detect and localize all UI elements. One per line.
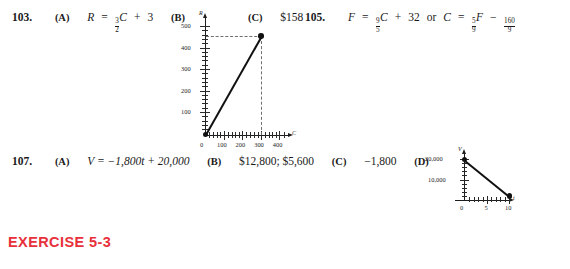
y-tick-label-400: 400 [181,44,191,51]
x-tick-major [242,131,243,140]
x-tick-minor [469,197,470,202]
numerator: 160 [504,18,515,25]
x-tick-minor [474,197,475,202]
x-tick-label-400: 400 [273,141,283,148]
lhs: R [87,11,94,23]
fraction-nine-fifths: 95 [376,18,380,34]
x-tick-minor [483,197,484,202]
numerator: 5 [472,18,476,25]
exercise-heading: EXERCISE 5-3 [8,234,111,250]
part-label-a: (A) [55,12,70,23]
y-tick-label-200: 200 [181,87,191,94]
equals: = [362,11,369,23]
data-point-end [507,193,512,198]
data-line-segment [464,160,510,198]
equals: = [101,11,108,23]
y-tick-minor [202,95,208,96]
y-tick-minor [202,56,208,57]
y-tick-minor [202,52,208,53]
operator-plus: + [395,11,402,23]
constant: 3 [148,11,154,23]
answer-105-expression: F=95C+32orC=59F−1609 [348,11,515,23]
variable: C [119,11,127,23]
y-tick-major [200,48,210,49]
y-tick-label-100: 100 [181,108,191,115]
graph-103b: R C 500 400 300 200 100 [176,10,300,138]
answer-107a-expression: V = −1,800t + 20,000 [87,155,189,167]
y-tick-label-500: 500 [181,22,191,29]
y-tick-major [200,26,210,27]
y-tick-minor [202,103,208,104]
page-cut-text [8,263,308,268]
y-axis-label: R [199,10,203,16]
lhs-f: F [348,11,355,23]
answer-number: 107. [12,155,32,167]
y-tick-minor [202,99,208,100]
y-tick-minor [202,125,208,126]
x-tick-minor [254,132,255,138]
y-tick-label-300: 300 [181,65,191,72]
y-tick-minor [202,108,208,109]
y-tick-minor [202,65,208,66]
y-tick-label-10000: 10,000 [428,176,446,183]
part-label-a: (A) [55,156,70,167]
x-tick-major [487,196,488,204]
x-tick-minor [505,197,506,202]
x-tick-label-0: 0 [460,204,463,211]
x-tick-minor [496,197,497,202]
denominator: 9 [472,26,476,35]
equals-2: = [458,11,465,23]
constant-32: 32 [408,11,420,23]
x-tick-minor [239,132,240,138]
x-tick-minor [217,132,218,138]
data-line-segment [205,37,262,136]
x-tick-label-10: 10 [505,204,511,211]
x-tick-label-100: 100 [217,141,227,148]
x-tick-label-200: 200 [236,141,246,148]
fraction-five-ninths: 59 [472,18,476,34]
x-tick-minor [284,132,285,138]
y-tick-minor [462,171,468,172]
y-tick-minor [462,192,468,193]
y-tick-minor [202,121,208,122]
fraction-onesixty-ninths: 1609 [504,18,515,34]
x-tick-minor [276,132,277,138]
x-tick-minor [232,132,233,138]
y-tick-minor [462,196,468,197]
x-tick-minor [265,132,266,138]
denominator: 5 [376,26,380,35]
y-tick-minor [202,82,208,83]
part-label-c: (C) [332,156,347,167]
x-tick-minor [269,132,270,138]
x-tick-minor [220,132,221,138]
answer-107c-value: −1,800 [364,155,396,167]
y-tick-major [200,69,210,70]
y-tick-minor [202,86,208,87]
data-point-start [203,132,209,138]
part-label-b: (B) [207,156,221,167]
guide-line-horizontal [206,36,262,37]
y-tick-label-20000: 20,000 [425,155,443,162]
variable-c: C [380,11,388,23]
x-tick-minor [272,132,273,138]
data-point-end [258,33,264,39]
answer-number: 105. [305,11,325,23]
y-tick-major [200,112,210,113]
x-tick-minor [478,197,479,202]
answer-number: 103. [12,11,32,23]
answer-row-105: 105. F=95C+32orC=59F−1609 [305,12,515,34]
x-axis-label: C [292,130,296,136]
y-tick-minor [202,73,208,74]
y-tick-minor [202,30,208,31]
numerator: 9 [376,18,380,25]
graph-107d: V t 20,000 10,000 5 10 0 [425,148,535,210]
x-tick-minor [258,132,259,138]
y-tick-minor [202,116,208,117]
y-tick-minor [462,184,468,185]
y-tick-minor [462,167,468,168]
x-tick-minor [491,197,492,202]
answer-row-107: 107. (A) V = −1,800t + 20,000 (B) $12,80… [12,156,429,168]
answer-key-page: 103. (A) R=32C+3 (B) (C) $158 105. F=95C… [0,0,570,269]
answer-107b-value: $12,800; $5,600 [239,155,314,167]
y-tick-major [200,91,210,92]
